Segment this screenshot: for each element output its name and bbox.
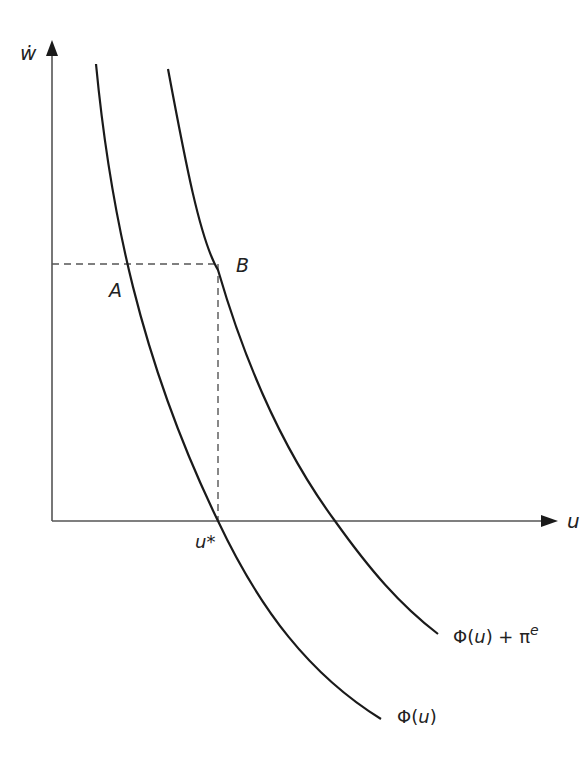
curve-phi-label: Φ(u) [397, 706, 437, 727]
y-axis-arrow-icon [46, 40, 58, 56]
point-a-label: A [107, 279, 122, 301]
x-axis-arrow-icon [541, 515, 558, 527]
axes [46, 40, 558, 527]
curve-phi [96, 64, 381, 719]
point-b-label: B [236, 254, 249, 276]
u-star-label: u* [195, 531, 215, 552]
guide-lines [52, 264, 218, 521]
y-axis-label: ẇ [20, 41, 37, 65]
phillips-curve-diagram: ẇ u A B u* Φ(u) + πe Φ(u) [0, 0, 582, 766]
x-axis-label: u [567, 509, 580, 533]
curve-phi-plus-pi-e-label: Φ(u) + πe [453, 622, 539, 647]
